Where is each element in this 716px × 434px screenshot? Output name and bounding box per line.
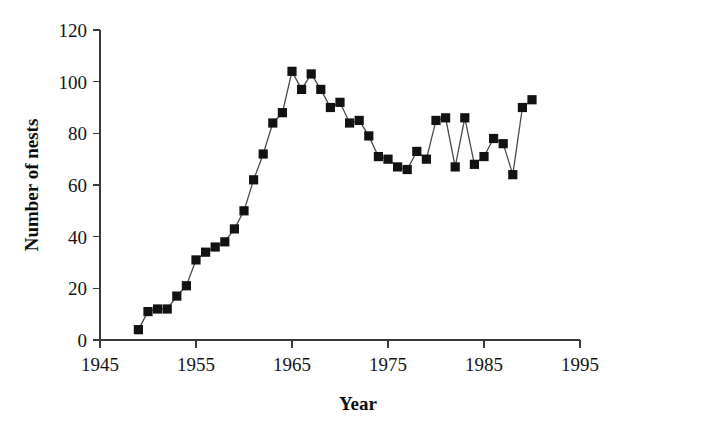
x-tick-label-1965: 1965 <box>273 354 311 375</box>
data-point-1972 <box>355 116 364 125</box>
data-point-1956 <box>201 248 210 257</box>
data-point-1959 <box>230 224 239 233</box>
data-point-1970 <box>335 98 344 107</box>
data-point-1978 <box>412 147 421 156</box>
data-point-1958 <box>220 237 229 246</box>
data-point-1971 <box>345 118 354 127</box>
x-tick-label-1955: 1955 <box>177 354 215 375</box>
data-point-1967 <box>307 69 316 78</box>
data-point-1962 <box>259 149 268 158</box>
data-point-1969 <box>326 103 335 112</box>
data-point-1977 <box>403 165 412 174</box>
data-point-1952 <box>163 304 172 313</box>
nest-count-line-chart: 020406080100120 194519551965197519851995… <box>0 0 716 434</box>
data-point-1963 <box>268 118 277 127</box>
data-point-1950 <box>143 307 152 316</box>
y-tick-label-0: 0 <box>78 330 88 351</box>
data-point-1955 <box>191 255 200 264</box>
x-axis: 194519551965197519851995 <box>81 340 599 375</box>
y-tick-label-120: 120 <box>59 20 88 41</box>
y-tick-label-100: 100 <box>59 72 88 93</box>
data-point-1985 <box>479 152 488 161</box>
y-axis: 020406080100120 <box>59 20 101 351</box>
data-point-1983 <box>460 113 469 122</box>
data-point-1957 <box>211 242 220 251</box>
data-point-1953 <box>172 291 181 300</box>
y-axis-title: Number of nests <box>21 119 42 252</box>
data-point-1965 <box>287 67 296 76</box>
data-point-1984 <box>470 160 479 169</box>
y-tick-label-60: 60 <box>68 175 87 196</box>
data-point-1973 <box>364 131 373 140</box>
y-tick-label-80: 80 <box>68 123 87 144</box>
data-point-1964 <box>278 108 287 117</box>
data-point-1949 <box>134 325 143 334</box>
y-tick-label-40: 40 <box>68 227 87 248</box>
data-point-1954 <box>182 281 191 290</box>
data-point-1980 <box>431 116 440 125</box>
chart-figure: 020406080100120 194519551965197519851995… <box>0 0 716 434</box>
data-point-1990 <box>527 95 536 104</box>
data-point-1988 <box>508 170 517 179</box>
data-point-1974 <box>374 152 383 161</box>
data-point-1968 <box>316 85 325 94</box>
data-point-1960 <box>239 206 248 215</box>
x-tick-label-1995: 1995 <box>561 354 599 375</box>
x-tick-label-1975: 1975 <box>369 354 407 375</box>
data-point-1982 <box>451 162 460 171</box>
data-point-1979 <box>422 155 431 164</box>
data-point-1986 <box>489 134 498 143</box>
data-point-1975 <box>383 155 392 164</box>
data-point-1961 <box>249 175 258 184</box>
data-point-1987 <box>499 139 508 148</box>
data-point-1976 <box>393 162 402 171</box>
data-point-1989 <box>518 103 527 112</box>
series-line-number-of-nests <box>138 71 532 329</box>
data-point-1981 <box>441 113 450 122</box>
y-tick-label-20: 20 <box>68 278 87 299</box>
x-axis-title: Year <box>339 393 378 414</box>
x-tick-label-1945: 1945 <box>81 354 119 375</box>
x-tick-label-1985: 1985 <box>465 354 503 375</box>
data-point-1951 <box>153 304 162 313</box>
data-series-number-of-nests <box>134 67 537 335</box>
data-point-1966 <box>297 85 306 94</box>
